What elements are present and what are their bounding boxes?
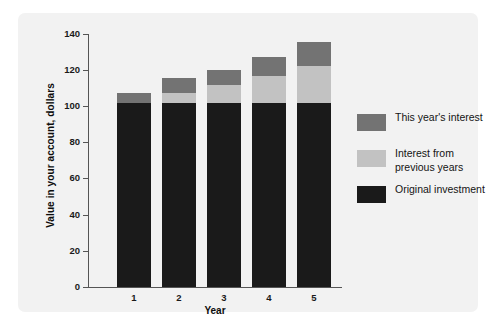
- legend-swatch-previous-years: [357, 150, 386, 167]
- legend-label-this-year: This year's interest: [395, 111, 487, 125]
- y-tick-label-20: 20: [44, 246, 80, 255]
- legend-label-original: Original investment: [395, 183, 487, 197]
- y-tick-140: [83, 34, 88, 35]
- y-tick-40: [83, 215, 88, 216]
- bar-segment-5-series-0: [297, 103, 331, 287]
- chart-legend: This year's interest Interest from previ…: [357, 112, 487, 220]
- y-axis-title: Value in your account, dollars: [45, 66, 56, 246]
- bar-segment-2-series-0: [162, 103, 196, 287]
- legend-swatch-this-year: [357, 114, 386, 131]
- y-tick-120: [83, 70, 88, 71]
- y-tick-20: [83, 251, 88, 252]
- y-tick-100: [83, 106, 88, 107]
- chart-figure: 140 120 100 80 60 40 20 0 Value in your …: [0, 0, 499, 331]
- legend-item-this-year[interactable]: This year's interest: [357, 112, 487, 143]
- bar-group-year-4[interactable]: [252, 0, 286, 331]
- y-tick-label-140: 140: [44, 29, 80, 38]
- y-tick-60: [83, 178, 88, 179]
- y-tick-80: [83, 142, 88, 143]
- legend-label-previous-years: Interest from previous years: [395, 147, 487, 174]
- plot-area: 140 120 100 80 60 40 20 0 Value in your …: [0, 0, 499, 331]
- bar-segment-3-series-0: [207, 103, 241, 287]
- bar-segment-1-series-0: [117, 103, 151, 287]
- y-tick-label-0: 0: [44, 282, 80, 291]
- bar-segment-4-series-0: [252, 103, 286, 287]
- bar-segment-3-series-1: [207, 85, 241, 103]
- bar-segment-4-series-2: [252, 57, 286, 76]
- bar-group-year-3[interactable]: [207, 0, 241, 331]
- bar-segment-2-series-1: [162, 93, 196, 103]
- bar-group-year-5[interactable]: [297, 0, 331, 331]
- bar-segment-5-series-1: [297, 66, 331, 103]
- legend-swatch-original: [357, 186, 386, 203]
- bar-segment-4-series-1: [252, 76, 286, 103]
- legend-item-previous-years[interactable]: Interest from previous years: [357, 148, 487, 179]
- legend-item-original[interactable]: Original investment: [357, 184, 487, 215]
- bar-segment-2-series-2: [162, 78, 196, 92]
- y-axis-line: [88, 34, 89, 288]
- bar-segment-5-series-2: [297, 42, 331, 65]
- bar-segment-1-series-2: [117, 93, 151, 103]
- bar-segment-3-series-2: [207, 70, 241, 84]
- bar-group-year-1[interactable]: [117, 0, 151, 331]
- bar-group-year-2[interactable]: [162, 0, 196, 331]
